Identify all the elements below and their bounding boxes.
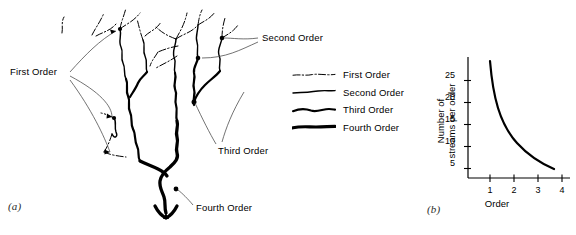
streams-per-order-chart <box>464 57 570 182</box>
chart-xlabel: Order <box>485 198 509 209</box>
legend-label-fourth-order: Fourth Order <box>343 122 399 133</box>
fourth-order-stream <box>140 121 178 213</box>
chart-xtick-2: 2 <box>511 185 516 195</box>
annotation-fourth-order: Fourth Order <box>196 202 252 213</box>
chart-ytick-10: 10 <box>445 136 455 146</box>
legend-item-second-order: Second Order <box>292 84 412 102</box>
second-order-streams <box>112 25 222 137</box>
first-order-streams <box>62 8 238 157</box>
annotation-leaders <box>70 31 258 205</box>
chart-curve <box>490 61 554 169</box>
legend-item-third-order: Third Order <box>292 101 412 119</box>
legend-swatch-first-order <box>292 69 336 81</box>
annotation-second-order: Second Order <box>262 32 323 43</box>
legend-label-second-order: Second Order <box>343 87 404 98</box>
chart-ylabel-wrap: Number of streams per order <box>421 62 439 180</box>
legend-swatch-second-order <box>292 86 336 98</box>
annotation-third-order: Third Order <box>218 145 268 156</box>
stream-network-drawing <box>62 8 258 219</box>
chart-xtick-4: 4 <box>559 185 564 195</box>
legend-swatch-fourth-order <box>292 121 336 133</box>
chart-ytick-5: 5 <box>450 158 455 168</box>
panel-b-label: (b) <box>427 203 440 215</box>
chart-ytick-20: 20 <box>445 92 455 102</box>
chart-ytick-25: 25 <box>445 70 455 80</box>
chart-xtick-1: 1 <box>487 185 492 195</box>
legend-item-fourth-order: Fourth Order <box>292 119 412 137</box>
third-order-streams <box>126 58 220 161</box>
chart-xtick-3: 3 <box>535 185 540 195</box>
stream-order-legend: First Order Second Order Third Order Fou… <box>292 66 412 136</box>
legend-label-first-order: First Order <box>343 69 390 80</box>
chart-ytick-15: 15 <box>445 114 455 124</box>
panel-a-label: (a) <box>8 200 21 212</box>
legend-swatch-third-order <box>292 104 336 116</box>
legend-item-first-order: First Order <box>292 66 412 84</box>
legend-label-third-order: Third Order <box>343 104 393 115</box>
annotation-arrowheads <box>105 30 117 155</box>
annotation-first-order: First Order <box>10 66 57 77</box>
